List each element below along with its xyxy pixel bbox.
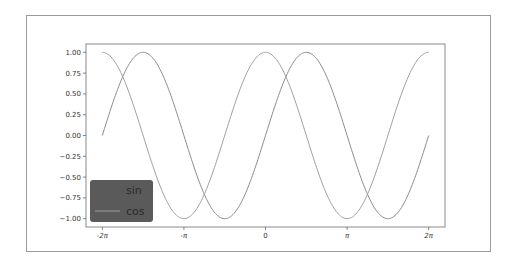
- x-tick-label: -π: [181, 232, 189, 240]
- x-tick-label: π: [345, 232, 350, 240]
- x-tick-label: -2π: [97, 232, 109, 240]
- legend: sin cos: [90, 180, 153, 222]
- y-tick-label: −1.00: [60, 215, 81, 223]
- y-tick-label: 0.50: [65, 90, 81, 98]
- x-tick-label: 2π: [424, 232, 433, 240]
- legend-label-sin: sin: [126, 184, 142, 197]
- y-axis: 1.000.750.500.250.00−0.25−0.50−0.75−1.00: [60, 49, 86, 223]
- x-tick-label: 0: [263, 232, 267, 240]
- legend-label-cos: cos: [126, 205, 145, 218]
- line-chart: 1.000.750.500.250.00−0.25−0.50−0.75−1.00…: [0, 0, 514, 267]
- x-axis: -2π-π0π2π: [97, 227, 434, 240]
- y-tick-label: −0.50: [60, 174, 81, 182]
- y-tick-label: −0.25: [60, 153, 81, 161]
- y-tick-label: 0.75: [65, 70, 81, 78]
- y-tick-label: 0.00: [65, 132, 81, 140]
- y-tick-label: −0.75: [60, 194, 81, 202]
- y-tick-label: 0.25: [65, 111, 81, 119]
- y-tick-label: 1.00: [65, 49, 81, 57]
